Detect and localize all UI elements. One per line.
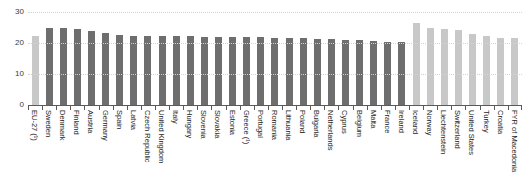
x-axis-label: Denmark	[59, 110, 67, 140]
gridline-20	[28, 43, 522, 44]
bar-slot	[211, 4, 225, 105]
y-axis-tick-label-30: 30	[2, 8, 24, 16]
bar-slot	[169, 4, 183, 105]
bar	[356, 40, 363, 105]
x-axis-label-slot: United Kingdom	[155, 110, 169, 194]
x-axis-label-slot: Estonia	[226, 110, 240, 194]
y-axis-tick-label-0: 0	[2, 101, 24, 109]
bar-slot	[268, 4, 282, 105]
x-axis-label: Austria	[87, 110, 95, 133]
bar-series	[28, 4, 522, 105]
x-axis-label: Turkey	[482, 110, 490, 133]
bar-slot	[508, 4, 522, 105]
x-axis-label: Latvia	[129, 110, 137, 130]
bar	[173, 36, 180, 105]
x-axis-label-slot: Denmark	[56, 110, 70, 194]
x-axis-category-labels: EU-27 (¹)SwedenDenmarkFinlandAustriaGerm…	[28, 110, 522, 194]
x-axis-label-slot: United States	[465, 110, 479, 194]
bar-slot	[141, 4, 155, 105]
bar-chart: 0102030 EU-27 (¹)SwedenDenmarkFinlandAus…	[0, 0, 530, 196]
bar-slot	[56, 4, 70, 105]
x-axis-label: Poland	[299, 110, 307, 133]
bar	[229, 37, 236, 105]
x-axis-label-slot: Malta	[367, 110, 381, 194]
x-axis-label: Sweden	[45, 110, 53, 137]
bar	[271, 38, 278, 105]
x-axis-label-slot: Norway	[423, 110, 437, 194]
x-axis-label: Hungary	[186, 110, 194, 138]
x-axis-label: Lithuania	[285, 110, 293, 140]
bar-slot	[183, 4, 197, 105]
x-axis-label: FYR of Macedonia	[510, 110, 518, 172]
bar	[215, 37, 222, 105]
x-axis-label-slot: Sweden	[42, 110, 56, 194]
bar	[497, 38, 504, 105]
bar-slot	[155, 4, 169, 105]
bar	[328, 39, 335, 105]
bar-slot	[324, 4, 338, 105]
bar-slot	[254, 4, 268, 105]
bar	[144, 36, 151, 105]
x-axis-label: Slovakia	[214, 110, 222, 138]
bar-slot	[226, 4, 240, 105]
x-axis-label: France	[383, 110, 391, 133]
bar-slot	[42, 4, 56, 105]
x-axis-label-slot: Austria	[84, 110, 98, 194]
x-axis-label: Greece (¹)	[242, 110, 250, 144]
bar-slot	[451, 4, 465, 105]
x-axis-label-slot: FYR of Macedonia	[508, 110, 522, 194]
x-axis-label: Spain	[115, 110, 123, 129]
bar-slot	[437, 4, 451, 105]
x-axis-label-slot: Poland	[296, 110, 310, 194]
x-axis-label: Malta	[369, 110, 377, 128]
bar	[300, 38, 307, 105]
bar-slot	[494, 4, 508, 105]
gridline-30	[28, 12, 522, 13]
x-axis-label-slot: Germany	[99, 110, 113, 194]
bar	[413, 23, 420, 105]
x-axis-label: Switzerland	[454, 110, 462, 149]
bar	[511, 38, 518, 105]
bar	[130, 36, 137, 105]
bar-slot	[395, 4, 409, 105]
bar-slot	[70, 4, 84, 105]
x-axis-label: Cyprus	[341, 110, 349, 134]
x-axis-label-slot: Greece (¹)	[240, 110, 254, 194]
bar	[286, 38, 293, 105]
bar-slot	[480, 4, 494, 105]
x-axis-label-slot: Belgium	[353, 110, 367, 194]
x-axis-label-slot: Netherlands	[324, 110, 338, 194]
bar-slot	[127, 4, 141, 105]
bar-slot	[353, 4, 367, 105]
bar-slot	[465, 4, 479, 105]
bar	[74, 29, 81, 105]
x-axis-label-slot: Bulgaria	[310, 110, 324, 194]
x-axis-label: EU-27 (¹)	[31, 110, 39, 141]
x-axis-label-slot: Turkey	[480, 110, 494, 194]
x-axis-label: United Kingdom	[158, 110, 166, 163]
x-axis-label-slot: Italy	[169, 110, 183, 194]
x-axis-label-slot: Slovakia	[211, 110, 225, 194]
x-axis-label: Belgium	[355, 110, 363, 137]
bar	[243, 37, 250, 105]
bar-slot	[84, 4, 98, 105]
bar	[483, 36, 490, 105]
bar-slot	[310, 4, 324, 105]
x-axis-label-slot: Croatia	[494, 110, 508, 194]
bar-slot	[423, 4, 437, 105]
bar	[469, 34, 476, 105]
bar-slot	[240, 4, 254, 105]
x-axis-label: Croatia	[496, 110, 504, 134]
x-axis-label-slot: Portugal	[254, 110, 268, 194]
bar	[455, 30, 462, 105]
x-axis-label-slot: France	[381, 110, 395, 194]
x-axis-label: United States	[468, 110, 476, 155]
bar	[32, 36, 39, 105]
y-axis: 0102030	[0, 4, 24, 105]
x-axis-label: Iceland	[412, 110, 420, 134]
bar	[201, 37, 208, 106]
x-axis-label: Netherlands	[327, 110, 335, 150]
bar	[46, 28, 53, 106]
x-axis-label-slot: Switzerland	[451, 110, 465, 194]
bar	[441, 29, 448, 105]
